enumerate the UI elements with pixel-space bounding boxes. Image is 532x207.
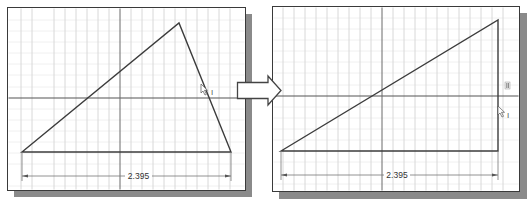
right-cursor-constraint-glyph: I [507, 111, 509, 120]
right-grid [272, 6, 520, 192]
right-dimension-value: 2.395 [386, 170, 408, 180]
vertical-constraint-icon[interactable] [505, 82, 510, 89]
right-dimension[interactable]: 2.395 [281, 151, 498, 180]
left-cursor-constraint-glyph: I [211, 88, 213, 97]
sketch-drawing: 2.395 I [0, 0, 532, 207]
left-dimension[interactable]: 2.395 [22, 152, 231, 181]
left-dimension-value: 2.395 [128, 171, 150, 181]
left-cursor-icon: I [201, 84, 213, 97]
transition-arrow-icon [238, 76, 282, 105]
